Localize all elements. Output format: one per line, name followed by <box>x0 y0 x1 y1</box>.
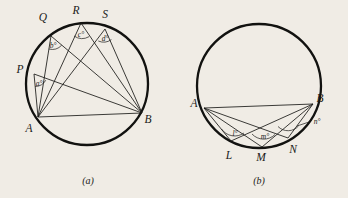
figure-a: A B P Q R S a° b° c° d° (a) <box>15 4 151 187</box>
point-label-a-s: S <box>102 8 108 20</box>
figure-page: A B P Q R S a° b° c° d° (a) <box>0 0 348 198</box>
chord-b-a-b <box>204 104 313 108</box>
caption-a: (a) <box>82 175 94 187</box>
geometry-figures: A B P Q R S a° b° c° d° (a) <box>0 0 348 198</box>
chord-q-b <box>51 36 142 113</box>
point-label-b-n: N <box>288 143 298 155</box>
point-label-a-r: R <box>71 4 79 16</box>
point-label-a-b: B <box>144 113 151 125</box>
point-label-b-m: M <box>255 151 267 163</box>
angle-label-n: n° <box>314 117 321 126</box>
angle-label-m: m° <box>261 132 269 141</box>
point-label-a-p: P <box>15 63 23 75</box>
angle-label-a: a° <box>36 79 43 88</box>
point-label-b-a: A <box>189 97 198 109</box>
circle-a <box>26 23 148 145</box>
angle-label-b: b° <box>50 41 57 50</box>
point-label-b-b: B <box>316 92 323 104</box>
chord-a-b <box>38 113 142 117</box>
point-label-a-q: Q <box>39 11 48 23</box>
figure-b: A B L M N l° m° n° (b) <box>189 24 323 187</box>
caption-b: (b) <box>253 175 265 187</box>
angle-label-d: d° <box>102 34 109 43</box>
angle-arc-n <box>278 126 299 131</box>
circle-b <box>197 24 321 148</box>
chord-p-b <box>34 74 142 113</box>
chord-l-b <box>231 104 313 141</box>
point-label-b-l: L <box>225 149 232 161</box>
chord-r-b <box>81 23 142 113</box>
chord-s-b <box>105 29 142 113</box>
angle-label-c: c° <box>78 30 84 39</box>
chord-r-a <box>38 23 81 117</box>
angle-label-l: l° <box>232 129 237 138</box>
point-label-a-a: A <box>24 122 33 134</box>
